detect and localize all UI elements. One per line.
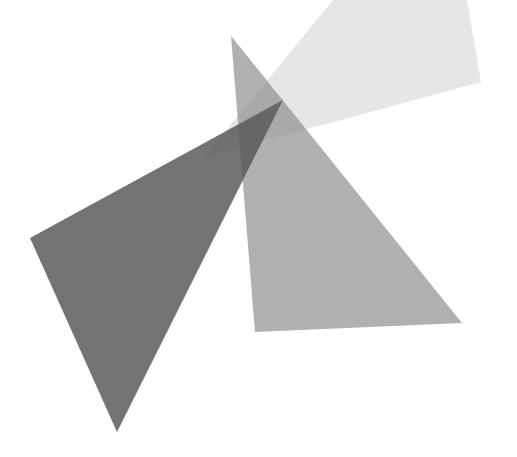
abstract-shapes-canvas — [0, 0, 517, 457]
dark-triangle-shape — [30, 100, 283, 432]
